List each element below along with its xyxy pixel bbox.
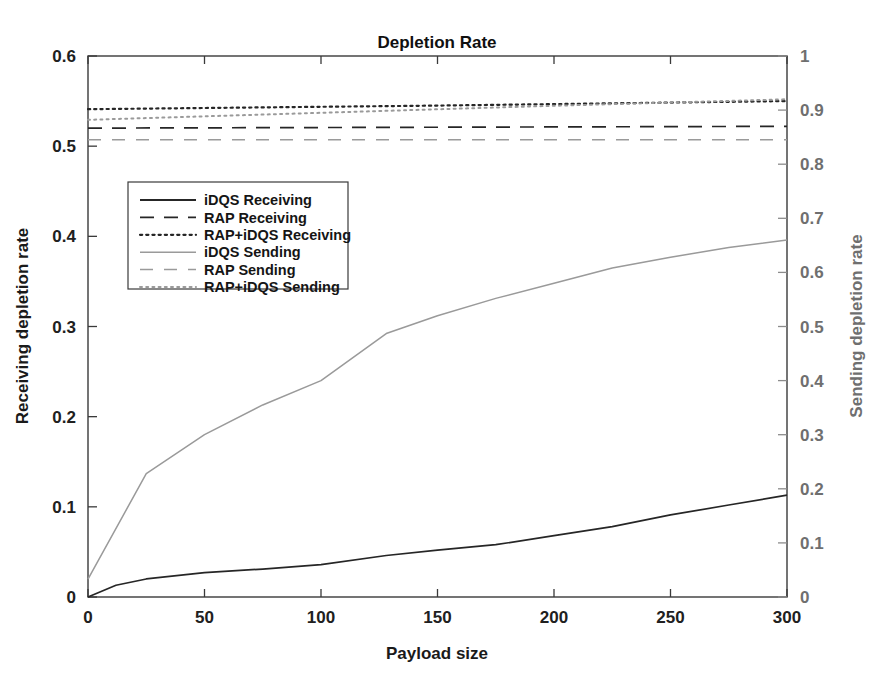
chart-figure: Depletion Rate 050100150200250300 00.10.… (0, 0, 886, 680)
y-right-tick-label: 0.5 (800, 318, 824, 337)
legend-label-5: RAP+iDQS Sending (204, 279, 340, 295)
y-left-tick-label: 0.4 (52, 227, 76, 246)
x-tick-label: 250 (656, 608, 684, 627)
y-right-tick-label: 0.4 (800, 372, 824, 391)
y-right-tick-label: 1 (800, 47, 809, 66)
chart-legend[interactable]: iDQS ReceivingRAP ReceivingRAP+iDQS Rece… (128, 182, 351, 295)
legend-label-2: RAP+iDQS Receiving (204, 227, 351, 243)
y-left-tick-label: 0.3 (52, 318, 76, 337)
y-right-tick-label: 0.2 (800, 480, 824, 499)
y-axis-left-label: Receiving depletion rate (13, 228, 32, 425)
y-left-tick-label: 0.5 (52, 137, 76, 156)
depletion-rate-chart: Depletion Rate 050100150200250300 00.10.… (0, 0, 886, 680)
legend-label-1: RAP Receiving (204, 210, 307, 226)
x-tick-label: 200 (540, 608, 568, 627)
y-right-tick-label: 0.1 (800, 534, 824, 553)
x-tick-label: 150 (423, 608, 451, 627)
x-tick-label: 300 (773, 608, 801, 627)
y-left-tick-label: 0 (67, 588, 76, 607)
x-tick-label: 0 (83, 608, 92, 627)
y-right-tick-label: 0.9 (800, 101, 824, 120)
legend-label-0: iDQS Receiving (204, 192, 312, 208)
y-axis-right-label: Sending depletion rate (847, 234, 866, 417)
x-axis-label: Payload size (386, 644, 488, 663)
y-left-tick-label: 0.2 (52, 408, 76, 427)
x-tick-label: 100 (307, 608, 335, 627)
y-right-tick-label: 0.8 (800, 155, 824, 174)
y-left-tick-label: 0.1 (52, 498, 76, 517)
y-right-tick-label: 0.7 (800, 209, 824, 228)
y-right-tick-label: 0 (800, 588, 809, 607)
x-tick-label: 50 (195, 608, 214, 627)
y-right-tick-label: 0.3 (800, 426, 824, 445)
legend-label-3: iDQS Sending (204, 244, 301, 260)
chart-title: Depletion Rate (377, 33, 496, 52)
y-left-tick-label: 0.6 (52, 47, 76, 66)
legend-label-4: RAP Sending (204, 262, 296, 278)
y-right-tick-label: 0.6 (800, 263, 824, 282)
